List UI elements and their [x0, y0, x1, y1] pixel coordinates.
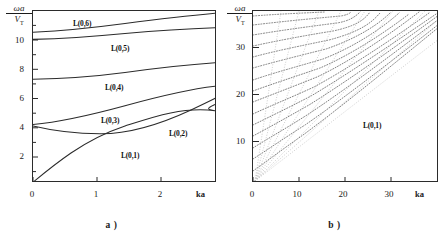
y-axis-denominator-b: VT — [227, 14, 253, 26]
panel-caption-b: b ) — [223, 220, 446, 230]
x-tick-b-0: 0 — [242, 189, 262, 199]
curve-b-3 — [253, 19, 438, 148]
y-tick-a-10: 10 — [6, 35, 24, 45]
y-axis-denominator-a: VT — [6, 14, 32, 26]
curve-L05 — [33, 28, 216, 40]
y-tick-a-2: 2 — [6, 151, 24, 161]
plot-area-b: L(0,1) — [252, 10, 438, 182]
y-tick-b-20: 20 — [227, 89, 245, 99]
x-axis-label-a: ka — [196, 189, 205, 199]
curve-b-7 — [253, 12, 419, 102]
asymptote-b-4 — [255, 11, 393, 181]
curve-label-b-L01: L(0,1) — [363, 121, 381, 130]
y-tick-b-30: 30 — [227, 42, 245, 52]
y-tick-a-4: 4 — [6, 122, 24, 132]
curve-b-15 — [253, 12, 325, 16]
x-tick-a-1: 1 — [86, 189, 106, 199]
curve-label-L02: L(0,2) — [169, 129, 187, 138]
x-axis-label-b: ka — [415, 189, 424, 199]
curve-b-6 — [253, 13, 429, 114]
curve-b-8 — [253, 14, 409, 91]
curve-b-12 — [253, 12, 370, 46]
x-tick-a-2: 2 — [150, 189, 170, 199]
x-tick-b-30: 30 — [379, 189, 399, 199]
asymptote-b-2 — [255, 19, 438, 181]
y-axis-numerator-b: ωa — [227, 4, 253, 14]
curve-L04 — [33, 63, 216, 80]
curve-b-11 — [253, 13, 380, 57]
asymptote-b-5 — [255, 11, 365, 181]
y-tick-b-10: 10 — [227, 136, 245, 146]
curve-label-L06: L(0,6) — [73, 19, 91, 28]
x-tick-a-0: 0 — [22, 189, 42, 199]
x-tick-b-10: 10 — [287, 189, 307, 199]
plot-area-a: L(0,6) L(0,5) L(0,4) L(0,3) L(0,2) L(0,1… — [32, 10, 216, 182]
y-tick-a-8: 8 — [6, 64, 24, 74]
curve-L02 — [33, 97, 216, 133]
figure-dispersion-curves: ωa VT 10 8 6 4 2 0 1 2 ka — [0, 0, 446, 234]
curve-L06 — [33, 13, 216, 32]
x-tick-b-20: 20 — [333, 189, 353, 199]
y-tick-a-6: 6 — [6, 93, 24, 103]
panel-caption-a: a ) — [0, 220, 223, 230]
curve-L01 — [33, 104, 216, 183]
y-axis-numerator-a: ωa — [6, 4, 32, 14]
asymptote-b-7 — [255, 11, 319, 181]
curves-svg-b — [253, 11, 438, 182]
curve-b-9 — [253, 13, 399, 80]
curve-label-L05: L(0,5) — [111, 44, 129, 53]
curve-b-4 — [253, 15, 438, 136]
panel-b: ωa VT 30 20 10 0 10 20 30 ka — [223, 0, 446, 234]
curve-label-L01: L(0,1) — [121, 151, 139, 160]
curve-label-L04: L(0,4) — [105, 83, 123, 92]
y-axis-label-a: ωa VT — [6, 4, 32, 26]
curve-label-L03: L(0,3) — [101, 116, 119, 125]
y-axis-label-b: ωa VT — [227, 4, 253, 26]
curve-L03 — [33, 86, 216, 124]
panel-a: ωa VT 10 8 6 4 2 0 1 2 ka — [0, 0, 223, 234]
